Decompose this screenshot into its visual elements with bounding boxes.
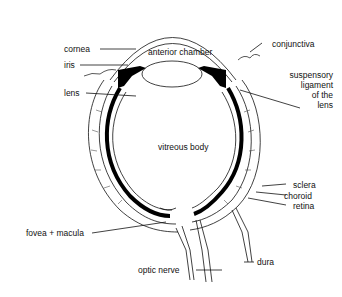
label-cornea: cornea — [64, 44, 90, 54]
sclera-hatching — [91, 110, 255, 204]
label-suspensory-3: of the — [271, 90, 333, 100]
iris-shape — [118, 66, 226, 88]
fovea-shape — [160, 208, 176, 210]
label-choroid: choroid — [284, 191, 312, 201]
lens-shape — [142, 61, 202, 87]
label-conjunctiva: conjunctiva — [272, 39, 315, 49]
leader-lines — [80, 43, 300, 270]
choroid-shape — [107, 88, 242, 216]
optic-nerve-shape — [176, 208, 252, 282]
label-sclera: sclera — [293, 180, 316, 190]
label-fovea-macula: fovea + macula — [26, 228, 84, 238]
label-suspensory-4: lens — [271, 100, 333, 110]
label-vitreous-body: vitreous body — [158, 142, 209, 152]
label-anterior-chamber: anterior chamber — [148, 47, 212, 57]
label-dura: dura — [257, 257, 274, 267]
label-iris: iris — [64, 60, 75, 70]
label-lens: lens — [64, 88, 80, 98]
label-optic-nerve: optic nerve — [138, 265, 180, 275]
label-suspensory-1: suspensory — [271, 70, 333, 80]
label-suspensory-2: ligament — [271, 80, 333, 90]
label-retina: retina — [293, 201, 314, 211]
